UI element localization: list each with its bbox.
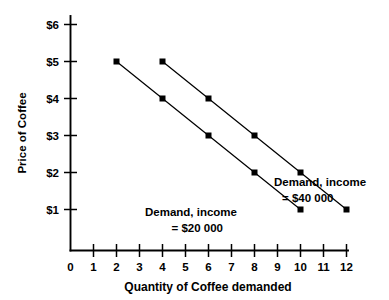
x-tick-label-11: 11 [317, 261, 330, 273]
chart-canvas: $6 $5 $4 $3 $2 $1 0 1 2 3 [0, 0, 389, 300]
demand-curve-chart: $6 $5 $4 $3 $2 $1 0 1 2 3 [0, 0, 389, 300]
y-tick-label-5: $5 [46, 56, 59, 68]
y-tick-label-2: $2 [46, 167, 59, 179]
y-tick-label-1: $1 [46, 204, 59, 216]
data-point-6-3 [206, 133, 212, 139]
annotation-income-40000: Demand, income = $40 000 [274, 176, 366, 204]
annotation-income-40000-line1: Demand, income [274, 176, 366, 188]
y-tick-label-4: $4 [46, 93, 59, 105]
x-tick-label-5: 5 [182, 261, 189, 273]
x-tick-label-8: 8 [251, 261, 258, 273]
x-tick-label-0: 0 [67, 261, 73, 273]
annotation-income-20000-line1: Demand, income [145, 206, 237, 218]
data-point-10-1 [298, 207, 304, 213]
annotation-income-20000: Demand, income = $20 000 [145, 206, 237, 234]
x-tick-label-1: 1 [90, 261, 97, 273]
data-point-12-1 [344, 207, 350, 213]
x-axis-title: Quantity of Coffee demanded [124, 280, 291, 294]
y-axis-title: Price of Coffee [16, 92, 28, 173]
x-tick-label-4: 4 [159, 261, 166, 273]
data-point-6-4 [206, 96, 212, 102]
data-point-8-2 [252, 170, 258, 176]
x-tick-label-7: 7 [228, 261, 234, 273]
x-tick-label-12: 12 [340, 261, 353, 273]
data-point-8-3 [252, 133, 258, 139]
y-tick-label-3: $3 [46, 130, 59, 142]
series-demand-income-20000 [114, 59, 304, 213]
annotation-income-40000-line2: = $40 000 [282, 192, 333, 204]
x-tick-label-9: 9 [274, 261, 280, 273]
y-tick-label-6: $6 [46, 19, 59, 31]
x-axis-tick-labels: 0 1 2 3 4 5 6 7 8 9 10 11 12 [67, 261, 353, 273]
data-point-4-4 [160, 96, 166, 102]
x-tick-label-3: 3 [136, 261, 142, 273]
x-tick-label-2: 2 [113, 261, 119, 273]
x-tick-label-6: 6 [205, 261, 211, 273]
data-point-2-5 [114, 59, 120, 65]
annotation-income-20000-line2: = $20 000 [172, 222, 223, 234]
x-tick-label-10: 10 [294, 261, 307, 273]
y-axis-tick-labels: $6 $5 $4 $3 $2 $1 [46, 19, 59, 216]
data-point-4-5 [160, 59, 166, 65]
data-point-10-2 [298, 170, 304, 176]
series-demand-income-40000 [160, 59, 350, 213]
